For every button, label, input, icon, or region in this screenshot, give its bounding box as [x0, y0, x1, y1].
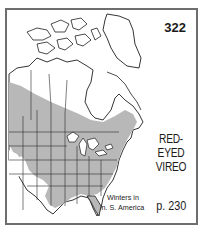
range-map-frame: 322 RED-EYED VIREO Winters in n. S. Amer…	[5, 8, 198, 225]
arctic-islands	[27, 18, 101, 54]
species-name-line-2: VIREO	[147, 160, 195, 174]
winter-note: Winters in n. S. America	[95, 193, 151, 213]
winter-note-line-2: n. S. America	[95, 203, 151, 213]
map-number: 322	[164, 20, 186, 35]
greenland-outline	[103, 14, 141, 68]
page-reference: p. 230	[156, 199, 186, 213]
species-name: RED-EYED VIREO	[147, 132, 195, 174]
species-name-line-1: RED-EYED	[147, 132, 195, 160]
winter-note-line-1: Winters in	[95, 193, 151, 203]
